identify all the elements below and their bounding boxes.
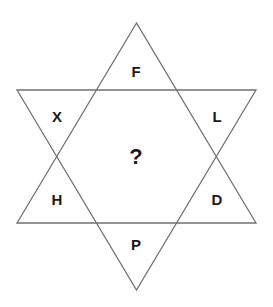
label-lower-right: D [212, 191, 223, 208]
label-bottom: P [131, 236, 141, 253]
label-center-question: ? [129, 144, 142, 169]
label-upper-left: X [52, 108, 62, 125]
label-lower-left: H [52, 191, 63, 208]
star-puzzle-diagram: F X L ? H D P [0, 0, 273, 307]
star-of-david-figure: F X L ? H D P [0, 0, 273, 307]
label-upper-right: L [212, 108, 221, 125]
label-top: F [131, 63, 140, 80]
